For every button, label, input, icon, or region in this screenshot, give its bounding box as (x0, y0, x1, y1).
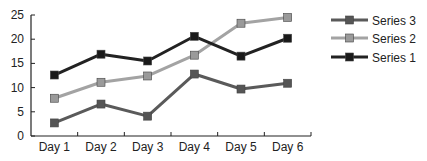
legend-marker-icon (346, 16, 354, 24)
data-point-marker (144, 72, 152, 80)
y-tick-label: 5 (17, 105, 24, 119)
series-2-line (50, 13, 291, 102)
y-tick-label: 15 (11, 56, 25, 70)
legend-label: Series 3 (372, 14, 416, 28)
x-tick-label: Day 5 (225, 140, 257, 154)
data-point-marker (190, 51, 198, 59)
y-tick-label: 0 (17, 129, 24, 143)
data-point-marker (97, 100, 105, 108)
y-tick-label: 10 (11, 81, 25, 95)
series-1-line (50, 32, 291, 79)
data-point-marker (190, 32, 198, 40)
legend-marker-icon (346, 53, 354, 61)
data-point-marker (144, 112, 152, 120)
series-3-line (50, 70, 291, 127)
data-point-marker (144, 57, 152, 65)
data-point-marker (97, 50, 105, 58)
data-point-marker (97, 78, 105, 86)
x-tick-label: Day 1 (39, 140, 71, 154)
data-point-marker (284, 79, 292, 87)
data-point-marker (237, 85, 245, 93)
data-point-marker (284, 34, 292, 42)
legend-item-series-2: Series 2 (331, 32, 416, 46)
y-axis: 0510152025 (11, 8, 35, 143)
data-point-marker (237, 19, 245, 27)
x-tick-label: Day 4 (179, 140, 211, 154)
data-point-marker (50, 119, 58, 127)
legend-item-series-1: Series 1 (331, 51, 416, 65)
plot-area (50, 13, 291, 127)
data-point-marker (190, 70, 198, 78)
legend: Series 3Series 2Series 1 (331, 14, 416, 65)
data-point-marker (50, 71, 58, 79)
y-tick-label: 20 (11, 32, 25, 46)
legend-item-series-3: Series 3 (331, 14, 416, 28)
legend-label: Series 1 (372, 51, 416, 65)
x-tick-label: Day 6 (272, 140, 304, 154)
x-tick-label: Day 2 (85, 140, 117, 154)
data-point-marker (237, 52, 245, 60)
legend-label: Series 2 (372, 32, 416, 46)
x-axis: Day 1Day 2Day 3Day 4Day 5Day 6 (31, 132, 311, 154)
y-tick-label: 25 (11, 8, 25, 22)
legend-marker-icon (346, 34, 354, 42)
x-tick-label: Day 3 (132, 140, 164, 154)
line-chart: 0510152025 Day 1Day 2Day 3Day 4Day 5Day … (0, 0, 427, 161)
data-point-marker (284, 13, 292, 21)
data-point-marker (50, 94, 58, 102)
